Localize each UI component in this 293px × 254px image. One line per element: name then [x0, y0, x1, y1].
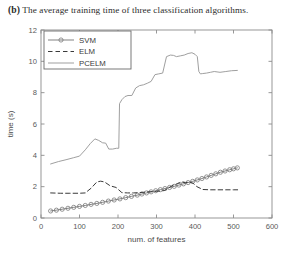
x-axis-title: num. of features — [128, 235, 186, 244]
y-tick-label: 8 — [33, 88, 37, 97]
y-axis-title: time (s) — [6, 110, 15, 137]
line-chart: 0100200300400500600024681012 num. of fea… — [0, 22, 293, 254]
x-tick-label: 0 — [39, 222, 43, 231]
x-tick-label: 200 — [112, 222, 125, 231]
series-layer — [49, 53, 240, 213]
y-tick-label: 10 — [29, 57, 37, 66]
figure-container: (b) The average training time of three c… — [0, 0, 293, 254]
y-tick-label: 6 — [33, 120, 37, 129]
y-tick-label: 4 — [33, 151, 37, 160]
y-tick-label: 0 — [33, 214, 37, 223]
x-tick-label: 600 — [266, 222, 279, 231]
chart-plot-area: 0100200300400500600024681012 num. of fea… — [0, 22, 293, 254]
legend-label-svm: SVM — [79, 36, 96, 45]
x-tick-label: 100 — [73, 222, 86, 231]
chart-legend: SVMELMPCELM — [44, 31, 131, 69]
y-tick-label: 2 — [33, 182, 37, 191]
x-tick-label: 500 — [227, 222, 240, 231]
legend-label-pcelm: PCELM — [79, 59, 106, 68]
caption-label: (b) — [8, 4, 20, 15]
x-tick-label: 300 — [150, 222, 163, 231]
x-tick-label: 400 — [189, 222, 202, 231]
caption-text: The average training time of three class… — [22, 5, 248, 15]
figure-caption: (b) The average training time of three c… — [8, 4, 288, 16]
y-tick-label: 12 — [29, 26, 37, 35]
legend-label-elm: ELM — [79, 47, 95, 56]
